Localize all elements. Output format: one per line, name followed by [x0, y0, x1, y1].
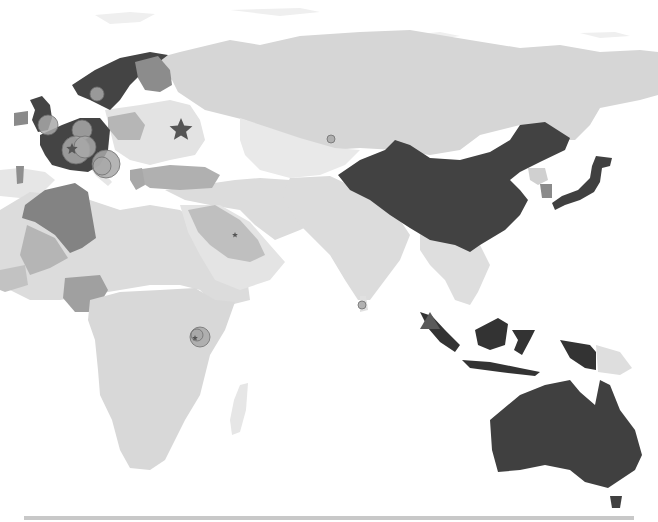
circle-marker[interactable]	[327, 135, 335, 143]
region-tasmania[interactable]	[610, 496, 622, 508]
region-ireland[interactable]	[14, 111, 28, 126]
circle-marker[interactable]	[93, 157, 111, 175]
circle-marker[interactable]	[90, 87, 104, 101]
region-south-korea[interactable]	[540, 184, 552, 198]
circle-marker[interactable]	[191, 329, 203, 341]
region-portugal[interactable]	[16, 166, 24, 184]
circle-marker[interactable]	[38, 115, 58, 135]
circle-marker[interactable]	[74, 136, 96, 158]
world-map[interactable]	[0, 0, 658, 522]
horizontal-scrollbar[interactable]	[24, 516, 634, 520]
region-turkey[interactable]	[135, 165, 220, 190]
circle-marker[interactable]	[358, 301, 366, 309]
map-canvas	[0, 0, 658, 522]
